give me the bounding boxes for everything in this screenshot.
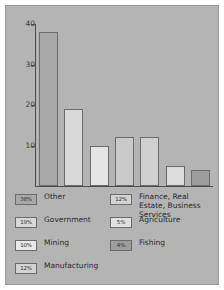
plot-area: 10203040 [6, 6, 220, 191]
y-tick-mark [31, 65, 35, 66]
legend-swatch: 5% [110, 217, 132, 228]
legend-item[interactable]: 12%Manufacturing [15, 261, 122, 284]
legend-item[interactable]: 5%Agriculture [110, 215, 217, 238]
legend-item[interactable]: 4%Fishing [110, 238, 217, 261]
legend-swatch: 12% [15, 263, 37, 274]
y-tick-mark [31, 24, 35, 25]
y-tick-mark [31, 146, 35, 147]
bar-series [36, 24, 213, 186]
legend-label: Fishing [139, 238, 217, 247]
legend-label: Manufacturing [44, 261, 122, 270]
bar [191, 170, 210, 186]
x-axis-line [35, 186, 213, 187]
y-tick-mark [31, 105, 35, 106]
bar [39, 32, 58, 186]
legend-label: Agriculture [139, 215, 217, 224]
legend-swatch: 4% [110, 240, 132, 251]
chart-legend: 38%Other19%Government10%Mining12%Manufac… [6, 192, 220, 286]
bar [64, 109, 83, 186]
bar [90, 146, 109, 187]
legend-item[interactable]: 38%Other [15, 192, 122, 215]
legend-column-right: 12%Finance, Real Estate, Business Servic… [110, 192, 217, 261]
legend-swatch: 19% [15, 217, 37, 228]
legend-swatch: 38% [15, 194, 37, 205]
legend-item[interactable]: 19%Government [15, 215, 122, 238]
legend-column-left: 38%Other19%Government10%Mining12%Manufac… [15, 192, 122, 284]
chart-figure: 10203040 38%Other19%Government10%Mining1… [5, 5, 219, 285]
legend-item[interactable]: 10%Mining [15, 238, 122, 261]
legend-swatch: 10% [15, 240, 37, 251]
legend-item[interactable]: 12%Finance, Real Estate, Business Servic… [110, 192, 217, 215]
bar [115, 137, 134, 186]
bar [166, 166, 185, 186]
legend-swatch: 12% [110, 194, 132, 205]
bar [140, 137, 159, 186]
